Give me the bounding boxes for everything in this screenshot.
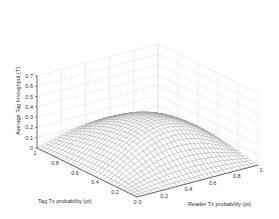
z-tick-label: 0.4 <box>25 104 33 110</box>
y-tick-label: 1 <box>33 150 36 156</box>
x-axis-label: Reader Tx probability (pt) <box>188 201 251 207</box>
z-axis-label: Average Tag throughput (T) <box>15 67 21 135</box>
x-tick-label: 0.4 <box>185 186 193 192</box>
z-tick-label: 0.3 <box>25 114 33 120</box>
x-tick-label: 0.2 <box>160 193 168 199</box>
y-tick-label: 0.8 <box>51 160 59 166</box>
surface-mesh <box>37 112 258 197</box>
z-tick-label: 0.7 <box>25 73 33 79</box>
surface-plot: 00.10.20.30.40.50.60.700.20.40.60.8100.2… <box>0 0 279 219</box>
z-tick-label: 0.6 <box>25 83 33 89</box>
x-tick-label: 0 <box>138 199 141 205</box>
z-tick-label: 0.2 <box>25 124 33 130</box>
y-tick-label: 0.2 <box>111 189 119 195</box>
x-tick-label: 0.6 <box>209 180 217 186</box>
x-tick-label: 0.8 <box>233 173 241 179</box>
x-tick-label: 1 <box>259 167 262 173</box>
y-tick-label: 0.6 <box>71 170 79 176</box>
z-tick-label: 0.5 <box>25 94 33 100</box>
y-tick-label: 0 <box>133 199 136 205</box>
z-tick-label: 0.1 <box>25 135 33 141</box>
y-axis-label: Tag Tx probability (pt) <box>38 198 92 204</box>
y-tick-label: 0.4 <box>91 179 99 185</box>
